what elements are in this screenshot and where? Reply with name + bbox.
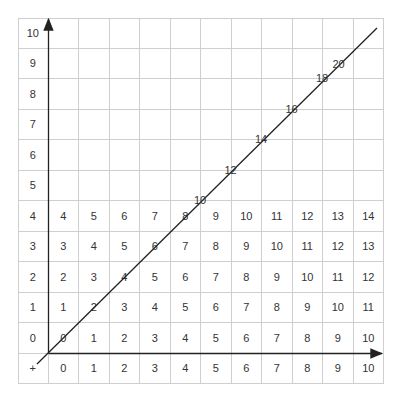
diagonal-sum-label: 14 — [255, 133, 267, 145]
diagonal-sum-label: 20 — [332, 58, 344, 70]
diagonal-sum-label: 12 — [224, 164, 236, 176]
diagonal-sum-label: 10 — [194, 194, 206, 206]
diagonal-sum-label: 16 — [285, 103, 297, 115]
diagonal-sum-label: 18 — [316, 72, 328, 84]
